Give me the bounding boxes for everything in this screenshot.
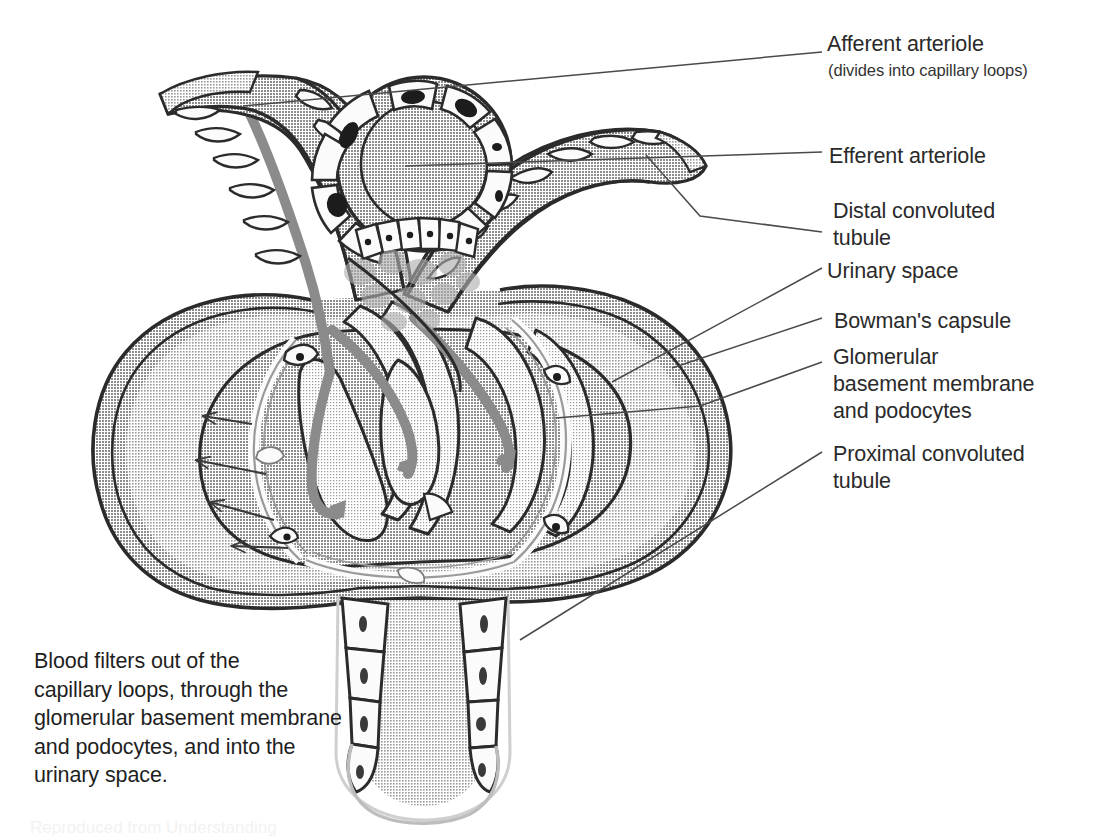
figure-caption: Blood filters out of the capillary loops… [34,647,342,790]
scan-artifact-text: Reproduced from Understanding [30,818,277,838]
proximal-convoluted-tubule [336,596,510,823]
renal-corpuscle-diagram: Afferent arteriole (divides into capilla… [0,0,1104,840]
label-bowmans-capsule: Bowman's capsule [834,308,1011,335]
macula-densa [356,218,478,259]
label-afferent-arteriole-sublabel: (divides into capillary loops) [828,60,1028,81]
label-distal-convoluted-tubule: Distal convoluted tubule [833,198,995,252]
bowman-leader [672,318,822,368]
label-glomerular-basement-membrane: Glomerular basement membrane and podocyt… [833,344,1034,425]
label-efferent-arteriole: Efferent arteriole [829,143,986,170]
label-urinary-space: Urinary space [827,258,958,285]
label-afferent-arteriole: Afferent arteriole [827,31,984,58]
afferent-leader [243,52,822,106]
label-proximal-convoluted-tubule: Proximal convoluted tubule [833,441,1025,495]
